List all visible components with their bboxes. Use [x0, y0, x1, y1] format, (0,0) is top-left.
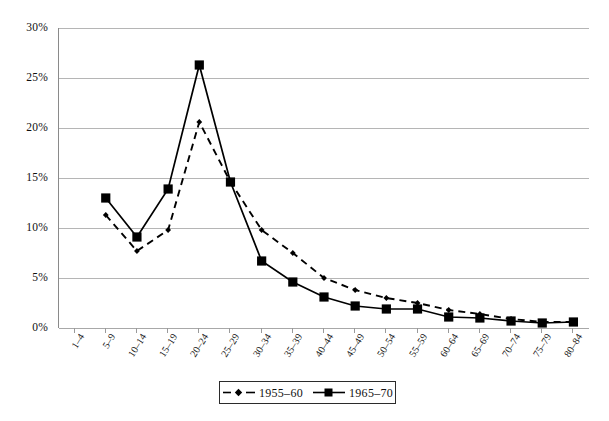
- x-axis-tick-label-9: 45–49: [345, 332, 367, 359]
- legend-label-1955-60: 1955–60: [259, 387, 303, 399]
- data-point-marker: [413, 304, 422, 313]
- x-axis-tick-label-8: 40–44: [313, 332, 335, 359]
- legend-label-1965-70: 1965–70: [349, 387, 393, 399]
- x-axis-tick-label-2: 10–14: [126, 332, 148, 359]
- x-axis-tick-label-11: 55–59: [407, 332, 429, 359]
- data-point-marker: [319, 292, 328, 301]
- x-axis-tick-label-14: 70–74: [501, 332, 523, 359]
- x-axis-tick-label-6: 30–34: [251, 332, 273, 359]
- x-axis-tick-mark-7: [292, 328, 293, 333]
- data-point-marker: [352, 287, 358, 293]
- data-point-marker: [351, 301, 360, 310]
- y-axis-tick-15%: 15%: [0, 172, 48, 184]
- x-axis-tick-mark-1: [105, 328, 106, 333]
- series-line-1955–60: [106, 122, 574, 322]
- legend-item-1965-70: 1965–70: [312, 387, 393, 399]
- x-axis-tick-mark-13: [479, 328, 480, 333]
- data-point-marker: [195, 60, 204, 69]
- x-axis-tick-label-4: 20–24: [189, 332, 211, 359]
- data-point-marker: [288, 277, 297, 286]
- x-axis-tick-label-12: 60–64: [438, 332, 460, 359]
- data-point-marker: [132, 232, 141, 241]
- x-axis-tick-mark-9: [354, 328, 355, 333]
- data-point-marker: [446, 307, 452, 313]
- x-axis-tick-label-1: 5–9: [101, 332, 118, 350]
- legend-marker-dashed-diamond-icon: [222, 387, 256, 398]
- data-point-marker: [165, 227, 171, 233]
- x-axis-tick-label-0: 1–4: [69, 332, 86, 350]
- x-axis-tick-label-5: 25–29: [220, 332, 242, 359]
- series-layer: [59, 28, 589, 328]
- x-axis-tick-mark-8: [323, 328, 324, 333]
- x-axis-tick-mark-12: [448, 328, 449, 333]
- data-point-marker: [257, 256, 266, 265]
- x-axis-tick-mark-11: [417, 328, 418, 333]
- x-axis-tick-mark-0: [74, 328, 75, 333]
- y-axis-tick-30%: 30%: [0, 22, 48, 34]
- data-point-marker: [101, 193, 110, 202]
- y-axis-tick-0%: 0%: [0, 322, 48, 334]
- data-point-marker: [196, 119, 202, 125]
- x-axis-tick-mark-3: [167, 328, 168, 333]
- data-point-marker: [538, 318, 547, 327]
- y-axis-tick-5%: 5%: [0, 272, 48, 284]
- x-axis-tick-label-3: 15–19: [158, 332, 180, 359]
- x-axis-tick-label-10: 50–54: [376, 332, 398, 359]
- data-point-marker: [569, 317, 578, 326]
- x-axis-tick-label-15: 75–79: [532, 332, 554, 359]
- data-point-marker: [164, 184, 173, 193]
- chart-legend: 1955–60 1965–70: [219, 381, 396, 404]
- x-axis-tick-mark-6: [261, 328, 262, 333]
- data-point-marker: [444, 312, 453, 321]
- x-axis-tick-mark-2: [136, 328, 137, 333]
- data-point-marker: [383, 295, 389, 301]
- data-point-marker: [226, 177, 235, 186]
- data-point-marker: [506, 316, 515, 325]
- legend-item-1955-60: 1955–60: [222, 387, 303, 399]
- x-axis-tick-label-13: 65–69: [469, 332, 491, 359]
- y-axis-tick-10%: 10%: [0, 222, 48, 234]
- data-point-marker: [475, 313, 484, 322]
- x-axis-tick-mark-14: [510, 328, 511, 333]
- chart-container: 0%5%10%15%20%25%30% 1–45–910–1415–1920–2…: [0, 0, 609, 421]
- data-point-marker: [382, 304, 391, 313]
- y-axis-tick-25%: 25%: [0, 72, 48, 84]
- y-axis-tick-20%: 20%: [0, 122, 48, 134]
- x-axis-tick-label-7: 35–39: [282, 332, 304, 359]
- series-line-1965–70: [106, 65, 574, 323]
- legend-marker-solid-square-icon: [312, 387, 346, 398]
- x-axis-tick-label-16: 80–84: [563, 332, 585, 359]
- plot-area: [58, 28, 588, 328]
